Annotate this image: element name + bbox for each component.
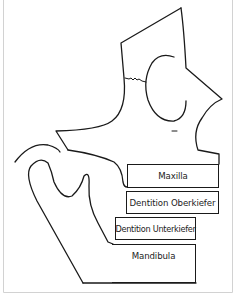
suture-line: [125, 78, 146, 82]
label-mandible: Mandibula: [112, 244, 196, 283]
cranium-outline: [56, 8, 181, 150]
maxilla-lower-outline: [68, 150, 127, 187]
face-profile-outline: [181, 8, 222, 164]
label-maxilla-text: Maxilla: [158, 171, 188, 181]
label-dentition-lower: Dentition Unterkiefer: [115, 217, 196, 240]
label-maxilla: Maxilla: [127, 164, 219, 188]
label-mandible-text: Mandibula: [132, 251, 176, 261]
label-dentition-upper-text: Dentition Oberkiefer: [130, 198, 216, 208]
label-dentition-lower-text: Dentition Unterkiefer: [115, 224, 195, 234]
diagram-canvas: Maxilla Dentition Oberkiefer Dentition U…: [0, 0, 237, 297]
mandible-ramus-outline: [29, 160, 113, 283]
zygomatic-arch: [15, 145, 60, 162]
orbit-outline: [146, 55, 186, 121]
label-dentition-upper: Dentition Oberkiefer: [126, 191, 219, 214]
